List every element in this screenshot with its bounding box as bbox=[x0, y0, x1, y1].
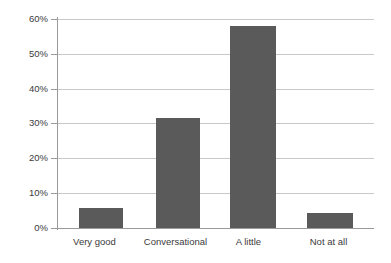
y-axis-tick-label-0: 0% bbox=[4, 223, 48, 233]
y-axis-tick-label-10: 10% bbox=[4, 188, 48, 198]
x-axis-label-very-good: Very good bbox=[58, 236, 131, 248]
bar-chart: 60% 50% 40% 30% 20% 10% 0% Very good Con… bbox=[0, 0, 391, 263]
x-axis-label-not-at-all: Not at all bbox=[289, 236, 368, 248]
x-axis-label-conversational: Conversational bbox=[125, 236, 226, 248]
bars-layer bbox=[57, 19, 374, 228]
y-axis-tick-label-60: 60% bbox=[4, 14, 48, 24]
y-axis-tick-label-40: 40% bbox=[4, 84, 48, 94]
x-axis-label-a-little: A little bbox=[212, 236, 285, 248]
y-axis-tick-label-30: 30% bbox=[4, 118, 48, 128]
bar-very-good bbox=[79, 208, 123, 228]
x-axis-line bbox=[57, 228, 374, 229]
bar-not-at-all bbox=[307, 213, 353, 228]
y-axis-tick-label-50: 50% bbox=[4, 49, 48, 59]
bar-a-little bbox=[230, 26, 276, 228]
bar-conversational bbox=[156, 118, 200, 228]
y-axis-labels: 60% 50% 40% 30% 20% 10% 0% bbox=[0, 0, 48, 263]
y-axis-tick-label-20: 20% bbox=[4, 153, 48, 163]
